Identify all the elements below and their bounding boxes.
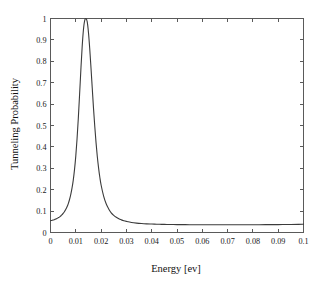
x-tick-label: 0.04 [145,237,159,246]
y-tick-label: 0.8 [36,57,46,66]
x-tick-label: 0.05 [170,237,184,246]
y-tick-label: 0.7 [36,79,46,88]
y-tick-label: 0.1 [36,207,46,216]
y-tick-label: 0.9 [36,36,46,45]
x-tick-label: 0.07 [220,237,234,246]
x-tick-label: 0.06 [195,237,209,246]
y-axis-title: Tunneling Probability [9,77,20,170]
x-tick-label: 0 [48,237,52,246]
y-tick-label: 0.3 [36,164,46,173]
y-tick-label: 0 [42,229,46,238]
y-tick-label: 0.4 [36,143,46,152]
x-tick-label: 0.08 [246,237,260,246]
y-tick-label: 0.5 [36,122,46,131]
figure-container: 00.010.020.030.040.050.060.070.080.090.1… [0,0,319,283]
x-tick-label: 0.1 [298,237,308,246]
y-tick-label: 0.2 [36,186,46,195]
y-tick-label: 0.6 [36,100,46,109]
x-tick-label: 0.02 [94,237,108,246]
y-tick-label: 1 [42,15,46,24]
x-axis-title: Energy [ev] [151,263,201,274]
x-tick-label: 0.09 [271,237,285,246]
tunneling-probability-chart: 00.010.020.030.040.050.060.070.080.090.1… [0,0,319,283]
x-tick-label: 0.03 [119,237,133,246]
x-tick-label: 0.01 [69,237,83,246]
